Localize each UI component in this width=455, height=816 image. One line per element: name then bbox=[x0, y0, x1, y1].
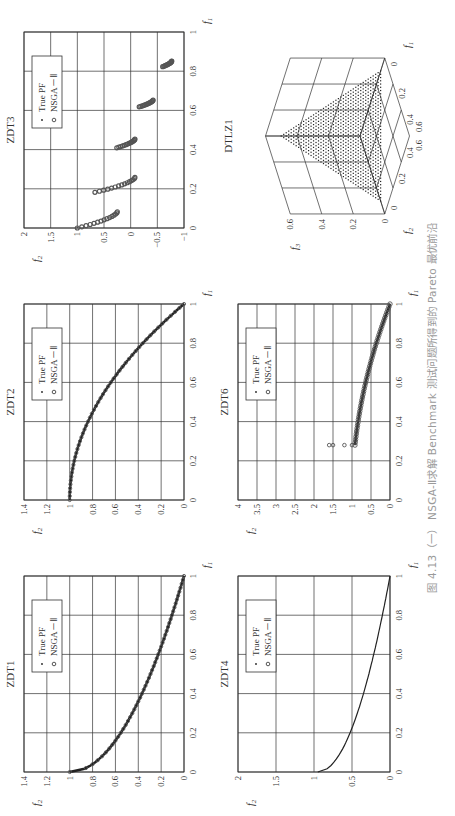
z-tick-label: 0 bbox=[380, 219, 390, 223]
chart-zdt3: ZDT300.20.40.60.81−1−0.500.511.52f1f2Tru… bbox=[0, 0, 230, 272]
legend-nsga: NSGA－Ⅱ bbox=[263, 346, 273, 384]
y-tick-label: 2.5 bbox=[290, 504, 300, 515]
data-points bbox=[318, 576, 390, 772]
data-points bbox=[68, 574, 185, 773]
data-points bbox=[327, 302, 392, 448]
y-axis-label: f2 bbox=[402, 227, 415, 234]
x-tick-label: 0 bbox=[188, 498, 198, 502]
legend: True PFNSGA－Ⅱ bbox=[32, 328, 62, 400]
y-tick-label: 1.4 bbox=[19, 775, 29, 786]
y-tick-label: 0 bbox=[385, 504, 395, 508]
plot-zdt6: ZDT600.20.40.60.8100.511.522.533.54f1f2T… bbox=[218, 272, 432, 544]
x-tick-label: 0.8 bbox=[394, 338, 404, 349]
y-tick-label: 0 bbox=[126, 232, 136, 236]
plot-zdt3: ZDT300.20.40.60.81−1−0.500.511.52f1f2Tru… bbox=[0, 0, 234, 272]
x-axis-label: f1 bbox=[407, 290, 420, 296]
legend: True PFNSGA－Ⅱ bbox=[32, 600, 62, 672]
y-tick-label: 0.6 bbox=[110, 776, 120, 787]
x-tick-label: 0.8 bbox=[188, 610, 198, 621]
y-tick-label: −1 bbox=[179, 232, 189, 241]
x-tick-label: 0.4 bbox=[394, 416, 404, 427]
chart-title: ZDT3 bbox=[4, 116, 16, 143]
legend-nsga: NSGA－Ⅱ bbox=[49, 618, 59, 656]
x-tick-label: 0 bbox=[188, 770, 198, 774]
x-tick-label: 0 bbox=[389, 206, 399, 210]
y-tick-label: 1.5 bbox=[46, 232, 56, 243]
figure-stage: ZDT100.20.40.60.8100.20.40.60.811.21.4f1… bbox=[0, 0, 455, 816]
y-tick-label: 0.2 bbox=[156, 504, 166, 515]
y-tick-label: 0.2 bbox=[397, 88, 407, 99]
y-axis-label: f2 bbox=[245, 527, 258, 534]
legend: True PFNSGA－Ⅱ bbox=[32, 56, 62, 128]
legend: True PFNSGA－Ⅱ bbox=[246, 328, 276, 400]
x-tick-label: 0.4 bbox=[188, 688, 198, 699]
x-tick-label: 1 bbox=[394, 302, 404, 306]
y-tick-label: 3.5 bbox=[252, 504, 262, 515]
plot-zdt2: ZDT200.20.40.60.8100.20.40.60.811.21.4f1… bbox=[0, 272, 234, 544]
data-points bbox=[75, 59, 173, 230]
legend: True PFNSGA－Ⅱ bbox=[246, 600, 276, 672]
x-tick-label: 0 bbox=[394, 498, 404, 502]
y-tick-label: 3 bbox=[271, 504, 281, 508]
y-tick-label: 1.2 bbox=[42, 776, 52, 787]
y-axis-label: f2 bbox=[31, 527, 44, 534]
x-tick-label: 1 bbox=[188, 302, 198, 306]
legend-nsga: NSGA－Ⅱ bbox=[263, 618, 273, 656]
x-tick-label: 0.6 bbox=[188, 105, 198, 116]
x-tick-label: 0.6 bbox=[394, 377, 404, 388]
legend-true-pf: True PF bbox=[37, 83, 47, 112]
x-tick-label: 0.2 bbox=[394, 455, 404, 466]
y-tick-label: 0.8 bbox=[88, 504, 98, 515]
y-tick-label: 0.5 bbox=[347, 776, 357, 787]
chart-zdt2: ZDT200.20.40.60.8100.20.40.60.811.21.4f1… bbox=[0, 272, 230, 544]
outlier-point bbox=[327, 443, 331, 447]
x-tick-label: 0.6 bbox=[188, 649, 198, 660]
y-tick-label: 0.6 bbox=[414, 140, 424, 151]
x-axis-label: f1 bbox=[402, 42, 415, 48]
x-tick-label: 0.8 bbox=[394, 610, 404, 621]
x-tick-label: 0.4 bbox=[394, 688, 404, 699]
chart-zdt4: ZDT400.20.40.60.8100.511.52f1f2True PFNS… bbox=[218, 544, 428, 816]
x-tick-label: 0.2 bbox=[397, 173, 407, 184]
x-axis-label: f1 bbox=[201, 290, 214, 296]
y-tick-label: 1 bbox=[347, 504, 357, 508]
x-tick-label: 1 bbox=[188, 30, 198, 34]
chart-title: ZDT2 bbox=[4, 389, 16, 416]
chart-title: ZDT4 bbox=[218, 660, 230, 687]
x-axis-label: f1 bbox=[201, 18, 214, 24]
plot-zdt1: ZDT100.20.40.60.8100.20.40.60.811.21.4f1… bbox=[0, 544, 234, 816]
y-tick-label: 0 bbox=[179, 504, 189, 508]
plot-zdt4: ZDT400.20.40.60.8100.511.52f1f2True PFNS… bbox=[218, 544, 432, 816]
z-tick-label: 0.2 bbox=[348, 219, 358, 230]
outlier-point bbox=[343, 443, 347, 447]
y-tick-label: 1.5 bbox=[328, 504, 338, 515]
legend-true-pf: True PF bbox=[37, 627, 47, 656]
y-axis-label: f2 bbox=[31, 799, 44, 806]
y-tick-label: 1 bbox=[309, 776, 319, 780]
y-tick-label: 0 bbox=[385, 776, 395, 780]
chart-dtlz1: DTLZ100.20.40.600.20.40.600.20.40.6f3f1f… bbox=[218, 0, 428, 272]
y-tick-label: 1.5 bbox=[271, 776, 281, 787]
x-tick-label: 0.4 bbox=[188, 144, 198, 155]
legend-nsga: NSGA－Ⅱ bbox=[49, 346, 59, 384]
legend-true-pf: True PF bbox=[251, 627, 261, 656]
x-tick-label: 0.8 bbox=[188, 66, 198, 77]
y-tick-label: 2 bbox=[233, 776, 243, 780]
legend-true-pf: True PF bbox=[37, 355, 47, 384]
y-tick-label: 0.5 bbox=[99, 232, 109, 243]
chart-zdt1: ZDT100.20.40.60.8100.20.40.60.811.21.4f1… bbox=[0, 544, 230, 816]
x-tick-label: 0.8 bbox=[188, 338, 198, 349]
data-points bbox=[68, 302, 185, 501]
x-axis-label: f1 bbox=[407, 562, 420, 568]
y-tick-label: 4 bbox=[233, 503, 243, 508]
x-tick-label: 0.2 bbox=[188, 183, 198, 194]
chart-title: DTLZ1 bbox=[222, 119, 234, 153]
x-tick-label: 0.6 bbox=[394, 649, 404, 660]
y-tick-label: 0.8 bbox=[88, 776, 98, 787]
figure-caption: 图 4.13（一） NSGA-Ⅱ求解 Benchmark 测试问题所得到的 Pa… bbox=[424, 0, 439, 816]
z-tick-label: 0.4 bbox=[317, 218, 327, 229]
z-axis-label: f3 bbox=[289, 243, 302, 250]
legend-true-pf: True PF bbox=[251, 355, 261, 384]
y-tick-label: 0.6 bbox=[110, 504, 120, 515]
x-axis-label: f1 bbox=[201, 562, 214, 568]
